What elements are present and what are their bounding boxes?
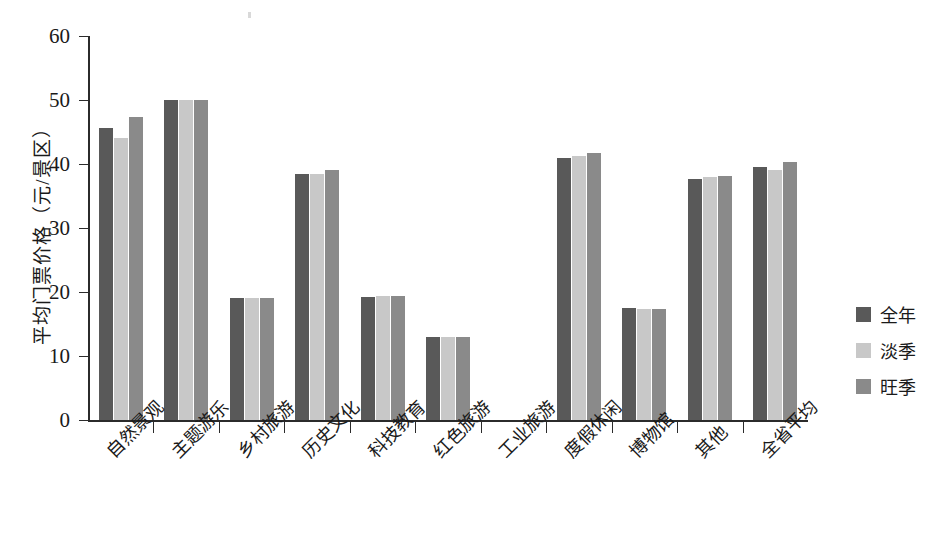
bar	[194, 100, 208, 420]
legend-color-swatch	[856, 379, 871, 394]
y-tick-mark	[79, 420, 88, 421]
bar	[99, 128, 113, 420]
bar-group	[688, 176, 732, 420]
y-tick-label: 20	[49, 280, 70, 305]
bar	[753, 167, 767, 420]
bar-group	[164, 100, 208, 420]
bar	[768, 170, 782, 420]
bar	[426, 337, 440, 420]
y-axis-line	[88, 36, 90, 422]
legend-label: 淡季	[880, 337, 916, 363]
bar	[652, 309, 666, 420]
cropped-caption	[0, 538, 944, 546]
bar	[718, 176, 732, 420]
y-tick-mark	[79, 356, 88, 357]
bar	[557, 158, 571, 420]
x-tick-mark	[743, 422, 744, 433]
y-tick-label: 40	[49, 152, 70, 177]
legend-color-swatch	[856, 343, 871, 358]
bar	[622, 308, 636, 420]
bar	[688, 179, 702, 420]
bar	[783, 162, 797, 420]
bar	[310, 174, 324, 420]
bar	[179, 100, 193, 420]
bar-group	[295, 170, 339, 420]
chart-legend: 全年淡季旺季	[856, 296, 944, 404]
y-tick-mark	[79, 228, 88, 229]
bar	[376, 296, 390, 420]
plot-area: 0102030405060	[88, 36, 808, 422]
bar	[441, 337, 455, 420]
legend-label: 全年	[880, 301, 916, 327]
bar	[230, 298, 244, 420]
y-tick-mark	[79, 164, 88, 165]
bar	[572, 156, 586, 420]
bar	[164, 100, 178, 420]
bar-group	[361, 296, 405, 420]
legend-item: 旺季	[856, 368, 944, 404]
y-tick-label: 50	[49, 88, 70, 113]
bar	[637, 309, 651, 420]
legend-item: 淡季	[856, 332, 944, 368]
bar	[361, 297, 375, 420]
bar-group	[230, 298, 274, 420]
y-tick-mark	[79, 292, 88, 293]
bar-group	[99, 117, 143, 420]
bar	[325, 170, 339, 420]
bar-group	[753, 162, 797, 420]
legend-label: 旺季	[880, 373, 916, 399]
legend-color-swatch	[856, 307, 871, 322]
bar-group	[557, 153, 601, 420]
bar	[703, 177, 717, 420]
y-tick-label: 0	[60, 408, 71, 433]
bar-chart-figure: 平均门票价格（元/景区） 0102030405060 自然景观主题游乐乡村旅游历…	[0, 0, 944, 546]
scan-speck	[248, 12, 251, 18]
y-tick-mark	[79, 100, 88, 101]
y-tick-label: 10	[49, 344, 70, 369]
bar	[129, 117, 143, 420]
bar	[295, 174, 309, 420]
bar-group	[622, 308, 666, 420]
bar	[114, 138, 128, 420]
y-tick-mark	[79, 36, 88, 37]
bar	[245, 298, 259, 420]
y-tick-label: 30	[49, 216, 70, 241]
legend-item: 全年	[856, 296, 944, 332]
bar	[587, 153, 601, 420]
x-category-label: 其他	[688, 419, 732, 463]
y-tick-label: 60	[49, 24, 70, 49]
